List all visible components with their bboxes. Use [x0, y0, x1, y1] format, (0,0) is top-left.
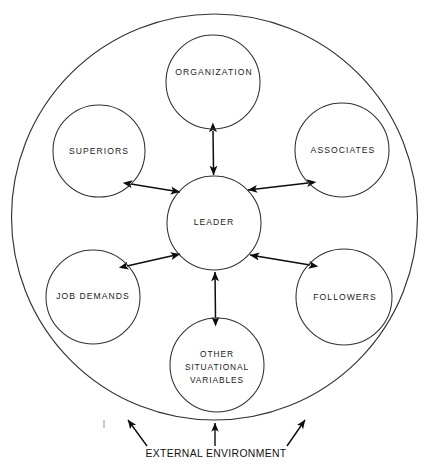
external-environment-label: EXTERNAL ENVIRONMENT	[145, 448, 286, 459]
connector-environment-left	[128, 420, 147, 446]
connector-environment-right	[287, 420, 305, 446]
node-label-leader: LEADER	[194, 217, 235, 227]
connector-leader-other-situational-variables	[215, 272, 216, 318]
leadership-diagram: ORGANIZATION ASSOCIATES FOLLOWERS OTHER …	[0, 0, 429, 469]
node-label-followers: FOLLOWERS	[313, 292, 376, 302]
diagram-canvas: ORGANIZATION ASSOCIATES FOLLOWERS OTHER …	[0, 0, 429, 469]
node-label-organization: ORGANIZATION	[175, 67, 252, 77]
node-label-superiors: SUPERIORS	[69, 146, 129, 156]
node-label-other-situational-variables-line2: SITUATIONAL	[185, 362, 249, 372]
node-circle-organization[interactable]	[166, 35, 260, 129]
connector-leader-organization	[213, 131, 214, 175]
node-label-other-situational-variables-line1: OTHER	[200, 349, 234, 359]
connector-leader-followers	[250, 255, 310, 265]
connector-leader-associates	[248, 183, 308, 190]
connector-leader-job-demands	[127, 254, 180, 266]
connector-leader-superiors	[131, 184, 180, 192]
node-label-other-situational-variables-line3: VARIABLES	[190, 375, 244, 385]
node-label-associates: ASSOCIATES	[311, 145, 376, 155]
node-label-job-demands: JOB DEMANDS	[56, 291, 130, 301]
